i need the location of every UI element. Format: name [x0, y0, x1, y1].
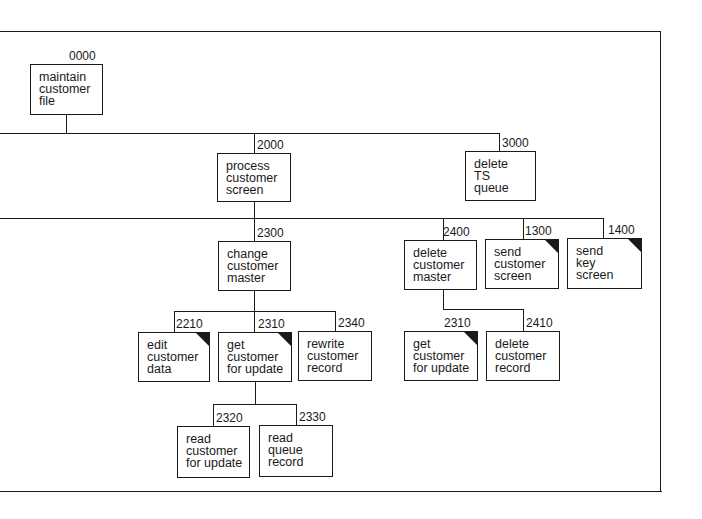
module-number: 2320 [216, 412, 243, 424]
module-label-line: for update [186, 457, 249, 469]
module-label-line: record [268, 456, 332, 468]
module-box-1300: sendcustomerscreen [485, 239, 559, 289]
bus-line-level-1 [0, 133, 500, 134]
connector [523, 309, 524, 331]
module-label-line: screen [576, 269, 641, 281]
frame-bottom-line [0, 491, 662, 492]
connector [296, 404, 297, 425]
module-box-2300: changecustomermaster [218, 241, 291, 291]
connector [213, 404, 214, 426]
module-number: 2310 [258, 318, 285, 330]
connector [254, 311, 255, 332]
bus-line-2300 [174, 311, 336, 312]
module-number: 2330 [299, 411, 326, 423]
module-label-line: data [147, 363, 209, 375]
connector [603, 218, 604, 238]
module-number: 2000 [257, 139, 284, 151]
module-label-line: record [495, 362, 559, 374]
module-number: 1300 [525, 225, 552, 237]
module-label-line: record [307, 362, 371, 374]
module-number: 2310 [444, 317, 471, 329]
connector [254, 201, 255, 219]
module-number: 2400 [443, 226, 470, 238]
bus-line-level-2 [0, 218, 604, 219]
connector [174, 311, 175, 332]
module-box-1400: sendkeyscreen [567, 238, 642, 289]
connector [335, 311, 336, 331]
connector [443, 289, 444, 309]
module-label-line: for update [227, 363, 291, 375]
module-box-0000: maintaincustomerfile [30, 64, 103, 115]
module-box-2340: rewritecustomerrecord [298, 331, 372, 381]
connector [66, 114, 67, 133]
module-box-2330: readqueuerecord [259, 425, 333, 477]
connector [255, 381, 256, 404]
bus-line-2310 [213, 404, 297, 405]
common-module-corner-icon [544, 239, 559, 254]
module-box-2310: getcustomerfor update [404, 331, 478, 381]
module-label-line: file [39, 95, 102, 107]
common-module-corner-icon [463, 331, 478, 346]
connector [254, 218, 255, 241]
connector [523, 218, 524, 239]
module-label-line: screen [226, 184, 290, 196]
module-box-2410: deletecustomerrecord [486, 331, 560, 381]
bus-line-2400 [443, 309, 524, 310]
module-label-line: queue [474, 182, 535, 194]
frame-top-line [0, 31, 661, 32]
common-module-corner-icon [195, 332, 210, 347]
module-number: 2300 [257, 227, 284, 239]
module-box-2400: deletecustomermaster [404, 240, 477, 290]
common-module-corner-icon [627, 238, 642, 253]
module-number: 0000 [69, 50, 96, 62]
module-box-2310: getcustomerfor update [218, 332, 292, 382]
connector [254, 133, 255, 153]
module-box-2320: readcustomerfor update [177, 426, 250, 478]
connector [499, 133, 500, 151]
module-label-line: master [413, 271, 476, 283]
frame-right-line [660, 31, 661, 492]
module-number: 2410 [526, 317, 553, 329]
module-number: 1400 [608, 224, 635, 236]
module-box-2210: editcustomerdata [138, 332, 210, 382]
module-number: 2210 [176, 318, 203, 330]
common-module-corner-icon [277, 332, 292, 347]
module-box-3000: deleteTSqueue [465, 151, 536, 201]
module-label-line: for update [413, 362, 477, 374]
module-label-line: screen [494, 270, 558, 282]
module-label-line: master [227, 272, 290, 284]
module-number: 2340 [338, 317, 365, 329]
module-number: 3000 [502, 137, 529, 149]
connector [254, 290, 255, 311]
module-box-2000: processcustomerscreen [217, 153, 291, 202]
